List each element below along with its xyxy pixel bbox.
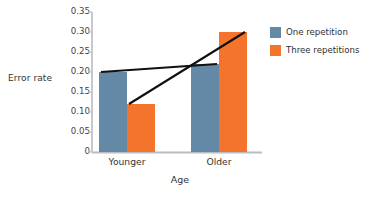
y-tick-label: 0.20	[58, 67, 90, 76]
three-repetitions-trend-line	[129, 32, 245, 104]
y-tick-label: 0.05	[58, 127, 90, 136]
legend-label: Three repetitions	[286, 45, 359, 56]
x-tick-label-older: Older	[179, 156, 259, 167]
bar	[191, 64, 219, 152]
y-tick-label: 0.15	[58, 87, 90, 96]
legend-item: One repetition	[270, 26, 373, 38]
chart-legend: One repetitionThree repetitions	[270, 26, 373, 62]
x-axis-title: Age	[120, 174, 240, 185]
legend-item: Three repetitions	[270, 44, 373, 56]
y-axis-tick-labels: 00.050.100.150.200.250.300.35	[58, 0, 90, 197]
bars-layer	[99, 32, 247, 152]
y-tick-label: 0.35	[58, 7, 90, 16]
legend-swatch-icon	[270, 45, 281, 56]
one-repetition-trend-line	[101, 64, 217, 72]
y-tick-label: 0.30	[58, 27, 90, 36]
bar	[127, 104, 155, 152]
bar	[99, 72, 127, 152]
y-tick-label: 0.25	[58, 47, 90, 56]
x-tick-label-younger: Younger	[87, 156, 167, 167]
y-tick-label: 0.10	[58, 107, 90, 116]
y-tick-label: 0	[58, 147, 90, 156]
legend-label: One repetition	[286, 27, 348, 38]
bar-chart-figure: Error rate 00.050.100.150.200.250.300.35…	[0, 0, 375, 197]
bar	[219, 32, 247, 152]
trend-lines-layer	[101, 32, 245, 104]
axis-lines	[92, 12, 262, 153]
legend-swatch-icon	[270, 27, 281, 38]
